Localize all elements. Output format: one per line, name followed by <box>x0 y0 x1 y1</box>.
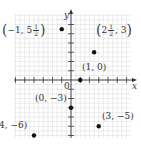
data-point <box>69 106 73 110</box>
fraction-denominator: 2 <box>34 31 38 37</box>
data-point <box>78 78 82 82</box>
label-point-neg4-neg6: (−4, −6) <box>0 121 27 130</box>
label-point-3-neg5: (3, −5) <box>102 112 134 121</box>
data-point <box>60 27 64 31</box>
label-point-1-0: (1, 0) <box>82 63 106 72</box>
data-point <box>92 50 96 54</box>
fraction: 12 <box>33 24 39 37</box>
label-point-0-neg3: (0, −3) <box>35 94 67 103</box>
right-paren: ) <box>126 22 131 38</box>
label-text: , 3 <box>115 25 126 35</box>
fraction-denominator: 2 <box>109 31 113 37</box>
fraction: 12 <box>108 24 114 37</box>
origin-label: 0 <box>64 82 70 91</box>
label-point-2half-3: (212, 3) <box>96 23 132 37</box>
right-paren: ) <box>40 22 45 38</box>
label-text: 2 <box>101 25 107 35</box>
y-axis-label: y <box>64 10 69 20</box>
label-text: −1, 5 <box>7 25 32 35</box>
x-axis-label: x <box>132 81 137 91</box>
data-point <box>32 133 36 137</box>
label-point-neg1-5half: (−1, 512) <box>2 23 45 37</box>
data-point <box>97 124 101 128</box>
y-axis-arrow-icon <box>69 9 73 14</box>
